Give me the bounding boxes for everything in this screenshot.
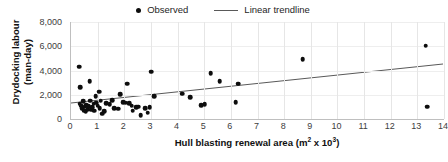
- data-point: [300, 57, 305, 62]
- data-point: [77, 65, 82, 70]
- y-axis-label-line1: Drydocking labour: [10, 0, 22, 124]
- x-axis-label-end: ): [336, 137, 339, 148]
- gridline-vertical: [391, 22, 392, 119]
- data-point: [110, 98, 115, 103]
- x-tick-label: 10: [331, 121, 341, 131]
- data-point: [87, 79, 92, 84]
- data-point: [236, 82, 241, 87]
- y-tick-label: 8,000: [39, 17, 62, 27]
- y-axis-label-line2: (man-day): [22, 0, 34, 124]
- x-tick-label: 5: [201, 121, 206, 131]
- x-tick-label: 3: [147, 121, 152, 131]
- plot-area: [70, 22, 444, 120]
- data-point: [99, 99, 104, 104]
- gridline-vertical: [444, 22, 445, 119]
- data-point: [97, 89, 102, 94]
- gridline-vertical: [284, 22, 285, 119]
- x-axis-ticks: 01234567891011121314: [70, 121, 444, 135]
- data-point: [147, 105, 152, 110]
- x-tick-label: 2: [121, 121, 126, 131]
- x-axis-label-main: Hull blasting renewal area (m: [175, 137, 308, 148]
- data-point: [139, 113, 144, 118]
- data-point: [149, 69, 154, 74]
- x-tick-label: 14: [438, 121, 448, 131]
- data-point: [202, 102, 207, 107]
- y-tick-label: 2,000: [39, 90, 62, 100]
- gridline-vertical: [417, 22, 418, 119]
- x-tick-label: 13: [411, 121, 421, 131]
- x-tick-label: 8: [281, 121, 286, 131]
- data-point: [93, 94, 98, 99]
- data-point: [209, 71, 214, 76]
- data-point: [125, 82, 130, 87]
- data-point: [118, 92, 123, 97]
- data-point: [425, 105, 430, 110]
- data-point: [188, 95, 193, 100]
- data-point: [233, 100, 238, 105]
- x-tick-label: 1: [94, 121, 99, 131]
- data-point: [180, 91, 185, 96]
- gridline-vertical: [311, 22, 312, 119]
- data-point: [424, 43, 429, 48]
- trendline-line-icon: [214, 10, 238, 11]
- x-tick-label: 4: [174, 121, 179, 131]
- data-point: [116, 106, 121, 111]
- legend-entry-observed: Observed: [136, 5, 188, 15]
- x-tick-label: 12: [385, 121, 395, 131]
- gridline-vertical: [178, 22, 179, 119]
- legend-label-observed: Observed: [147, 5, 188, 15]
- y-axis-label: Drydocking labour (man-day): [10, 0, 34, 124]
- data-point: [102, 109, 107, 114]
- y-tick-label: 0: [57, 114, 62, 124]
- gridline-vertical: [364, 22, 365, 119]
- data-point: [136, 105, 141, 110]
- gridline-vertical: [231, 22, 232, 119]
- x-tick-label: 9: [307, 121, 312, 131]
- x-tick-label: 6: [227, 121, 232, 131]
- data-point: [217, 79, 222, 84]
- x-tick-label: 7: [254, 121, 259, 131]
- observed-dot-icon: [136, 8, 141, 13]
- data-point: [152, 94, 157, 99]
- legend-entry-trendline: Linear trendline: [214, 5, 310, 15]
- x-tick-label: 0: [67, 121, 72, 131]
- x-tick-label: 11: [358, 121, 367, 131]
- data-point: [78, 85, 83, 90]
- data-point: [145, 110, 150, 115]
- x-axis-label-mid: x 10: [311, 137, 332, 148]
- gridline-vertical: [258, 22, 259, 119]
- y-tick-label: 6,000: [39, 41, 62, 51]
- gridline-vertical: [337, 22, 338, 119]
- y-tick-label: 4,000: [39, 66, 62, 76]
- chart-legend: Observed Linear trendline: [0, 2, 446, 18]
- legend-label-trendline: Linear trendline: [244, 5, 310, 15]
- x-axis-label: Hull blasting renewal area (m2 x 103): [70, 136, 444, 148]
- data-point: [92, 108, 97, 113]
